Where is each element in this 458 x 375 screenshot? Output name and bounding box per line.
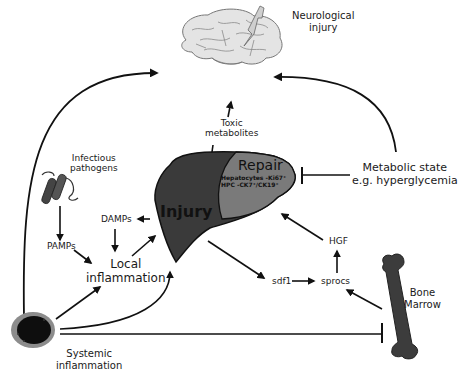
local-inflammation-line2: inflammation [86, 272, 166, 286]
infectious-pathogens-line2: pathogens [70, 163, 118, 173]
label-infectious-pathogens: Infectious pathogens [70, 153, 118, 174]
label-repair-markers: Hepatocytes -Ki67⁺ HPC -CK7⁺/CK19⁺ [221, 175, 286, 189]
immune-cell-icon [11, 312, 55, 348]
label-damps: DAMPs [101, 214, 132, 224]
neurological-injury-line2: injury [292, 22, 354, 34]
label-pamps: PAMPs [47, 241, 76, 251]
systemic-inflammation-line2: inflammation [56, 360, 122, 372]
label-sdf1: sdf1 [272, 276, 291, 286]
label-metabolic-state: Metabolic state e.g. hyperglycemia [352, 162, 458, 187]
label-bone-marrow: Bone Marrow [404, 287, 441, 310]
metabolic-state-line1: Metabolic state [352, 162, 458, 175]
label-liver-repair: Repair [238, 157, 283, 173]
bone-marrow-line2: Marrow [404, 299, 441, 311]
edge-hgf-to-repair [282, 214, 323, 240]
label-toxic-metabolites: Toxic metabolites [205, 118, 258, 139]
bone-marrow-line1: Bone [404, 287, 441, 299]
edge-metabolic-to-brain [275, 77, 396, 152]
systemic-inflammation-line1: Systemic [56, 348, 122, 360]
edge-injury-to-sdf1 [208, 241, 264, 278]
repair-markers-hpc: HPC -CK7⁺/CK19⁺ [221, 182, 286, 189]
label-hgf: HGF [329, 236, 348, 246]
edge-toxic-down [212, 145, 213, 152]
label-local-inflammation: Local inflammation [86, 258, 166, 286]
label-systemic-inflammation: Systemic inflammation [56, 348, 122, 371]
toxic-metabolites-line1: Toxic [205, 118, 258, 128]
neurological-injury-line1: Neurological [292, 10, 354, 22]
edge-toxic-up [228, 102, 231, 117]
edge-systemic-to-local [56, 287, 100, 319]
label-sprocs: sprocs [321, 276, 350, 286]
edge-bone-to-sprocs [347, 290, 382, 309]
metabolic-state-line2: e.g. hyperglycemia [352, 175, 458, 188]
label-liver-injury: Injury [160, 203, 213, 221]
local-inflammation-line1: Local [86, 258, 166, 272]
pathogen-icon [41, 172, 78, 205]
infectious-pathogens-line1: Infectious [70, 153, 118, 163]
edge-local-to-injury [132, 236, 155, 256]
label-neurological-injury: Neurological injury [292, 10, 354, 33]
brain-icon [182, 9, 282, 64]
toxic-metabolites-line2: metabolites [205, 128, 258, 138]
